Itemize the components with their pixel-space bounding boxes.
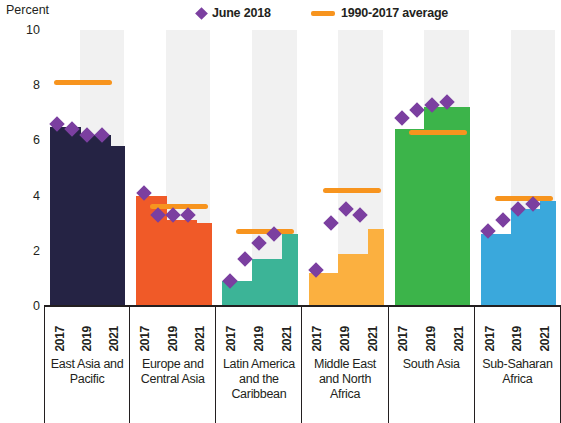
x-axis-labels: 201720192021East Asia and Pacific2017201…: [44, 307, 561, 423]
year-label-2019: 2019: [425, 326, 437, 352]
average-line: [409, 130, 467, 135]
diamond-marker-icon: [195, 7, 208, 20]
year-label-2017: 2017: [484, 326, 496, 352]
bar: [65, 127, 81, 306]
region-label: Latin America and the Caribbean: [217, 357, 300, 401]
year-label-2021: 2021: [453, 326, 465, 352]
year-label-2017: 2017: [139, 326, 151, 352]
y-axis-tick-2: 2: [10, 244, 40, 258]
year-tick-row: 201720192021: [130, 307, 215, 353]
region-label-row: Middle East and North Africa: [302, 353, 387, 423]
bar: [424, 107, 440, 306]
line-marker-icon: [311, 11, 335, 16]
average-line: [54, 80, 112, 85]
bar: [368, 229, 384, 306]
bar: [237, 281, 253, 306]
bar: [267, 259, 283, 306]
year-label-2021: 2021: [539, 326, 551, 352]
region-label-row: Sub-Saharan Africa: [475, 353, 560, 423]
year-label-2019: 2019: [339, 326, 351, 352]
bar: [410, 129, 426, 306]
bar: [181, 220, 197, 306]
year-tick-row: 201720192021: [302, 307, 387, 353]
y-axis-tick-10: 10: [10, 23, 40, 37]
bar: [50, 127, 66, 306]
year-label-2021: 2021: [194, 326, 206, 352]
bar: [439, 107, 455, 306]
bar: [95, 135, 111, 306]
bar: [496, 234, 512, 306]
plot-area: [44, 30, 561, 306]
year-label-2017: 2017: [225, 326, 237, 352]
x-axis-group-3: 201720192021Middle East and North Africa: [302, 307, 388, 423]
year-label-2017: 2017: [311, 326, 323, 352]
x-axis-group-1: 201720192021Europe and Central Asia: [130, 307, 216, 423]
bar: [525, 209, 541, 306]
year-label-2017: 2017: [397, 326, 409, 352]
bar: [323, 273, 339, 306]
year-tick-row: 201720192021: [216, 307, 301, 353]
bar: [196, 223, 212, 306]
year-label-2021: 2021: [367, 326, 379, 352]
region-label-row: Europe and Central Asia: [130, 353, 215, 423]
year-tick-row: 201720192021: [45, 307, 129, 353]
y-axis-tick-4: 4: [10, 189, 40, 203]
region-label: Middle East and North Africa: [303, 357, 386, 401]
year-tick-row: 201720192021: [389, 307, 474, 353]
region-label-row: East Asia and Pacific: [45, 353, 129, 423]
year-label-2019: 2019: [81, 326, 93, 352]
bar: [353, 254, 369, 306]
average-line: [495, 196, 553, 201]
region-label: Sub-Saharan Africa: [476, 357, 559, 387]
year-label-2017: 2017: [54, 326, 66, 352]
bar: [395, 129, 411, 306]
bar: [166, 220, 182, 306]
bar: [252, 259, 268, 306]
year-label-2019: 2019: [253, 326, 265, 352]
bar: [309, 273, 325, 306]
bar: [540, 201, 556, 306]
legend-item-average: 1990-2017 average: [311, 6, 448, 20]
x-axis-group-2: 201720192021Latin America and the Caribb…: [216, 307, 302, 423]
x-axis-group-5: 201720192021Sub-Saharan Africa: [475, 307, 561, 423]
year-tick-row: 201720192021: [475, 307, 560, 353]
x-axis-group-0: 201720192021East Asia and Pacific: [44, 307, 130, 423]
year-label-2021: 2021: [281, 326, 293, 352]
year-label-2019: 2019: [167, 326, 179, 352]
region-label-row: Latin America and the Caribbean: [216, 353, 301, 423]
y-axis-title: Percent: [6, 3, 49, 17]
year-label-2021: 2021: [108, 326, 120, 352]
region-label: Europe and Central Asia: [131, 357, 214, 387]
chart-container: June 2018 1990-2017 average Percent 0246…: [0, 0, 561, 423]
region-label: South Asia: [403, 357, 460, 372]
bar: [109, 146, 125, 306]
bar: [511, 209, 527, 306]
x-axis-group-4: 201720192021South Asia: [389, 307, 475, 423]
chart-legend: June 2018 1990-2017 average: [0, 0, 561, 30]
bar: [80, 135, 96, 306]
region-label: East Asia and Pacific: [46, 357, 128, 387]
y-axis-tick-6: 6: [10, 133, 40, 147]
y-axis: 0246810: [0, 30, 40, 306]
average-line: [323, 188, 381, 193]
y-axis-tick-0: 0: [10, 299, 40, 313]
legend-label-average: 1990-2017 average: [341, 6, 448, 20]
year-label-2019: 2019: [511, 326, 523, 352]
bar: [338, 254, 354, 306]
y-axis-tick-8: 8: [10, 78, 40, 92]
bar: [136, 196, 152, 306]
bar: [454, 107, 470, 306]
legend-item-june-2018: June 2018: [197, 6, 271, 20]
region-label-row: South Asia: [389, 353, 474, 423]
bar: [481, 234, 497, 306]
bar: [282, 234, 298, 306]
legend-label-june-2018: June 2018: [212, 6, 271, 20]
